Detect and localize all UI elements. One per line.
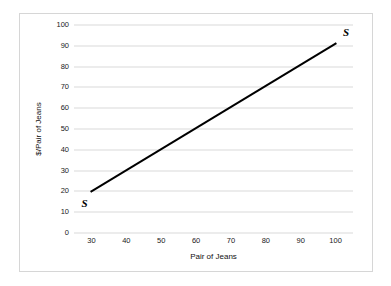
supply-curve-label: S bbox=[81, 198, 87, 209]
y-axis-tick-label: 80 bbox=[61, 63, 69, 71]
y-axis-tick-labels: 0102030405060708090100 bbox=[40, 25, 69, 233]
x-axis-tick-labels: 30405060708090100 bbox=[74, 237, 353, 249]
y-axis-tick-label: 100 bbox=[56, 21, 69, 29]
y-axis-tick-label: 30 bbox=[61, 167, 69, 175]
supply-curve-label: S bbox=[343, 27, 349, 38]
supply-curve-chart: $/Pair of Jeans 0102030405060708090100 3… bbox=[0, 0, 391, 286]
plot-area bbox=[74, 25, 353, 233]
x-axis-tick-label: 40 bbox=[122, 237, 130, 245]
y-axis-tick-label: 20 bbox=[61, 187, 69, 195]
x-axis-tick-label: 60 bbox=[192, 237, 200, 245]
y-axis-tick-label: 90 bbox=[61, 42, 69, 50]
y-axis-tick-label: 40 bbox=[61, 146, 69, 154]
y-axis-tick-label: 10 bbox=[61, 208, 69, 216]
series-group bbox=[74, 25, 353, 233]
y-axis-tick-label: 70 bbox=[61, 83, 69, 91]
supply-line bbox=[91, 44, 335, 192]
x-axis-tick-label: 80 bbox=[262, 237, 270, 245]
x-axis-tick-label: 90 bbox=[297, 237, 305, 245]
x-axis-tick-label: 70 bbox=[227, 237, 235, 245]
x-axis-title: Pair of Jeans bbox=[74, 253, 353, 261]
y-axis-tick-label: 60 bbox=[61, 104, 69, 112]
x-axis-tick-label: 30 bbox=[87, 237, 95, 245]
x-axis-tick-label: 100 bbox=[329, 237, 342, 245]
x-axis-tick-label: 50 bbox=[157, 237, 165, 245]
y-axis-tick-label: 50 bbox=[61, 125, 69, 133]
y-axis-tick-label: 0 bbox=[65, 229, 69, 237]
